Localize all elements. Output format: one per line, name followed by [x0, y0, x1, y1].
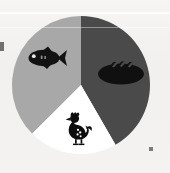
pie-chart-svg	[0, 0, 170, 173]
pie-chart-figure	[0, 0, 170, 173]
